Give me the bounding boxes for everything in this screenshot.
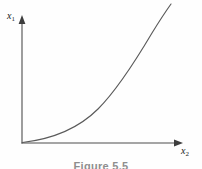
figure-caption: Figure 5.5 [0, 161, 202, 169]
plot-area [0, 0, 202, 169]
y-axis-arrow-icon [19, 15, 26, 24]
x-axis-label: x2 [181, 146, 189, 156]
y-axis-label-subscript: 1 [11, 15, 15, 23]
figure-container: x1 x2 Figure 5.5 [0, 0, 202, 169]
x-axis-label-subscript: 2 [185, 150, 189, 158]
data-curve [23, 4, 172, 143]
y-axis-label: x1 [7, 11, 15, 21]
